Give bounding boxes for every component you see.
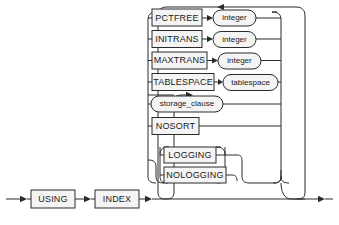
initrans-label: INITRANS xyxy=(155,34,199,44)
tablespace-label: TABLESPACE xyxy=(153,77,213,87)
option-row-tablespace[interactable]: TABLESPACE tablespace xyxy=(148,74,281,91)
exit-arrow xyxy=(318,196,325,202)
maxtrans-arg-label: integer xyxy=(227,56,252,65)
connector-index-branch xyxy=(139,196,166,202)
syntax-diagram: USING INDEX xyxy=(0,0,339,225)
logging-label: LOGGING xyxy=(168,150,211,160)
pctfree-arg-label: integer xyxy=(222,13,247,22)
entry-track xyxy=(6,196,31,202)
initrans-arg-label: integer xyxy=(222,35,247,44)
option-row-maxtrans[interactable]: MAXTRANS integer xyxy=(148,52,281,69)
option-row-initrans[interactable]: INITRANS integer xyxy=(148,31,281,48)
railroad-svg: USING INDEX xyxy=(0,0,339,225)
maxtrans-label: MAXTRANS xyxy=(154,55,206,65)
connector-using-index xyxy=(75,196,95,202)
option-collector-rail xyxy=(272,12,281,183)
node-index[interactable]: INDEX xyxy=(95,190,139,208)
option-group-logging: LOGGING NOLOGGING xyxy=(148,147,281,183)
node-using-label: USING xyxy=(38,194,68,204)
storage-clause-label: storage_clause xyxy=(160,99,215,108)
option-row-nosort[interactable]: NOSORT xyxy=(148,118,281,135)
option-row-logging[interactable]: LOGGING xyxy=(160,147,225,163)
node-index-label: INDEX xyxy=(103,194,132,204)
loop-back-arrow xyxy=(217,4,224,10)
pctfree-label: PCTFREE xyxy=(155,13,198,23)
nosort-label: NOSORT xyxy=(156,121,196,131)
option-row-storage-clause[interactable]: storage_clause xyxy=(148,96,281,112)
option-row-nologging[interactable]: NOLOGGING xyxy=(160,167,237,183)
nologging-label: NOLOGGING xyxy=(166,170,223,180)
option-row-pctfree[interactable]: PCTFREE integer xyxy=(148,9,281,26)
node-using[interactable]: USING xyxy=(31,190,75,208)
tablespace-arg-label: tablespace xyxy=(231,78,270,87)
